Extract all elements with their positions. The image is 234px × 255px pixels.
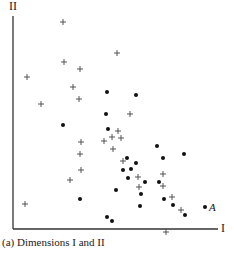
plus-marker [70, 84, 76, 90]
plus-marker [76, 96, 82, 102]
dot-marker [78, 197, 82, 201]
dot-marker [61, 123, 65, 127]
dot-marker [104, 112, 108, 116]
plus-marker [163, 229, 169, 235]
plus-marker [115, 128, 121, 134]
point-label-a: A [208, 201, 216, 213]
plus-marker [38, 101, 44, 107]
plus-marker [78, 167, 84, 173]
plus-marker [136, 184, 142, 190]
dot-marker [138, 204, 142, 208]
plus-marker [135, 174, 141, 180]
plus-marker [178, 207, 184, 213]
dot-marker [171, 203, 175, 207]
dot-marker [183, 213, 187, 217]
plus-marker [109, 134, 115, 140]
plus-marker [114, 50, 120, 56]
dot-marker [162, 197, 166, 201]
dot-marker [161, 156, 165, 160]
plus-marker [22, 201, 28, 207]
plus-marker [60, 19, 66, 25]
plus-marker [77, 151, 83, 157]
plus-marker [101, 138, 107, 144]
scatter-plot: A [0, 0, 234, 255]
plus-marker [24, 74, 30, 80]
dot-marker [155, 144, 159, 148]
y-axis-label: II [9, 0, 17, 14]
dot-marker [121, 168, 125, 172]
dot-marker [125, 156, 129, 160]
plus-marker [160, 183, 166, 189]
plus-marker [77, 66, 83, 72]
dot-marker [143, 180, 147, 184]
dot-marker [129, 167, 133, 171]
dot-marker [110, 219, 114, 223]
plus-markers [22, 19, 184, 235]
dot-marker-a [203, 205, 207, 209]
x-axis-label: I [221, 221, 225, 236]
plus-marker [61, 59, 67, 65]
dot-marker [139, 192, 143, 196]
plus-marker [127, 111, 133, 117]
dot-marker [134, 93, 138, 97]
plus-marker [78, 139, 84, 145]
annotations: A [203, 201, 216, 213]
dot-marker [134, 161, 138, 165]
figure-caption: (a) Dimensions I and II [2, 236, 105, 248]
plus-marker [67, 177, 73, 183]
dot-marker [114, 188, 118, 192]
plus-marker [118, 135, 124, 141]
dot-marker [105, 215, 109, 219]
plus-marker [169, 194, 175, 200]
dot-marker [105, 90, 109, 94]
dot-marker [182, 152, 186, 156]
plus-marker [120, 158, 126, 164]
plus-marker [110, 146, 116, 152]
dot-marker [106, 127, 110, 131]
dot-marker [126, 176, 130, 180]
plus-marker [160, 171, 166, 177]
dot-marker [157, 180, 161, 184]
